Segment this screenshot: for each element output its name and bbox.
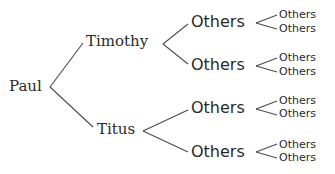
node-level3: Others [279, 95, 316, 106]
connector-l2a-l3a [256, 15, 277, 23]
connector-titus-others-1 [143, 110, 188, 131]
node-level2: Others [191, 14, 245, 30]
node-level3: Others [279, 108, 316, 119]
connector-l2c-l3a [256, 101, 277, 109]
tree-diagram: Paul Timothy Titus Others Others Others … [0, 0, 335, 174]
connector-titus-others-2 [143, 131, 188, 152]
node-level3: Others [279, 66, 316, 77]
node-level1: Titus [97, 122, 135, 137]
connector-l2a-l3b [256, 23, 277, 29]
connector-paul-titus [50, 87, 93, 127]
node-level1: Timothy [86, 34, 148, 49]
connector-l2b-l3b [256, 66, 277, 72]
connector-l2d-l3b [256, 152, 277, 158]
connector-l2b-l3a [256, 58, 277, 66]
node-level2: Others [191, 100, 245, 116]
node-level3: Others [279, 152, 316, 163]
node-root: Paul [9, 79, 42, 94]
connector-paul-timothy [50, 43, 83, 87]
node-level3: Others [279, 23, 316, 34]
connector-timothy-others-2 [163, 44, 188, 64]
node-level2: Others [191, 144, 245, 160]
connector-timothy-others-1 [163, 24, 188, 44]
node-level3: Others [279, 52, 316, 63]
node-level3: Others [279, 9, 316, 20]
node-level3: Others [279, 139, 316, 150]
connector-l2c-l3b [256, 109, 277, 115]
connector-l2d-l3a [256, 144, 277, 152]
node-level2: Others [191, 57, 245, 73]
